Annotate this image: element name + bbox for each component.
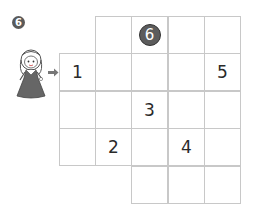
grid-cell[interactable] [168,91,205,129]
grid-cell[interactable]: 1 [59,53,96,91]
grid-cell[interactable]: 5 [204,53,241,91]
grid-cell[interactable]: 3 [131,91,168,129]
grid-cell[interactable]: 2 [95,128,132,166]
grid-cell[interactable] [95,53,132,91]
grid-cell[interactable] [168,166,205,204]
grid-cell[interactable]: 4 [168,128,205,166]
grid-cell[interactable] [59,128,96,166]
grid-cell-circled-clue[interactable]: 6 [131,16,168,54]
grid-cell[interactable] [168,16,205,54]
grid-cell[interactable] [204,128,241,166]
grid-cell[interactable] [95,16,132,54]
circled-clue-number: 6 [139,24,161,46]
grid-cell[interactable] [131,128,168,166]
grid-cell[interactable] [95,91,132,129]
grid-cell[interactable] [131,166,168,204]
grid-cell[interactable] [204,91,241,129]
grid-cell[interactable] [204,166,241,204]
puzzle-grid: 6 1 5 3 2 4 [0,0,254,224]
grid-cell[interactable] [204,16,241,54]
grid-cell[interactable] [59,91,96,129]
grid-cell[interactable] [168,53,205,91]
grid-cell[interactable] [131,53,168,91]
